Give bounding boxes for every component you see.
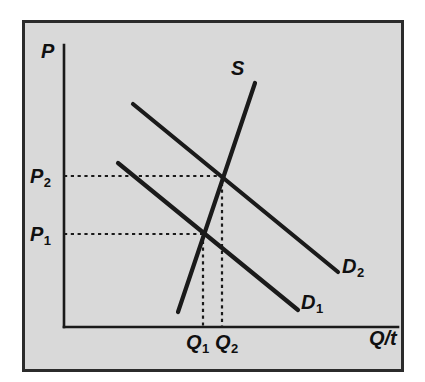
plot-canvas xyxy=(0,0,425,382)
supply-curve-label: S xyxy=(231,58,244,78)
y-axis-label: P xyxy=(41,41,54,61)
demand-curve-2 xyxy=(133,104,338,272)
price-label-1-sub: 1 xyxy=(44,233,51,248)
demand-curve-2-label-sub: 2 xyxy=(357,265,364,280)
demand-curve-2-label: D2 xyxy=(342,256,364,276)
price-label-2-main: P xyxy=(30,165,43,187)
quantity-label-2: Q2 xyxy=(215,332,238,352)
price-label-2-sub: 2 xyxy=(44,175,51,190)
supply-demand-figure: P Q/t P2 P1 Q1 Q2 S D1 D2 xyxy=(0,0,425,382)
demand-curve-1-label: D1 xyxy=(301,292,323,312)
demand-curve-2-label-main: D xyxy=(342,255,356,277)
demand-curve-1 xyxy=(118,163,298,310)
supply-curve xyxy=(178,83,255,312)
price-label-2: P2 xyxy=(30,166,51,186)
quantity-label-2-main: Q xyxy=(215,331,231,353)
x-axis-label: Q/t xyxy=(369,328,397,348)
quantity-label-1-sub: 1 xyxy=(202,341,209,356)
demand-curve-1-label-sub: 1 xyxy=(316,301,323,316)
demand-curve-1-label-main: D xyxy=(301,291,315,313)
quantity-label-1: Q1 xyxy=(186,332,209,352)
price-label-1-main: P xyxy=(30,223,43,245)
quantity-label-2-sub: 2 xyxy=(231,341,238,356)
price-label-1: P1 xyxy=(30,224,51,244)
quantity-label-1-main: Q xyxy=(186,331,202,353)
